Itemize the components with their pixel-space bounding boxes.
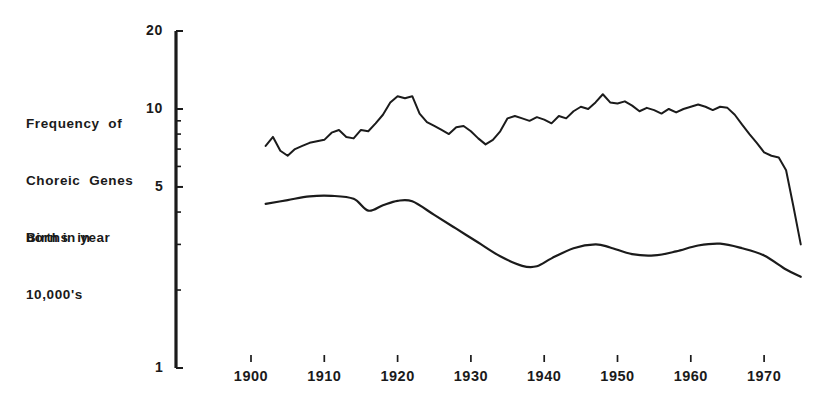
births-axis-label-line-2: 10,000's	[26, 285, 91, 304]
x-axis	[251, 355, 764, 362]
births-axis-label: Births in 10,000's	[26, 190, 91, 342]
x-tick-label-1930: 1930	[447, 368, 495, 384]
y-tick-label-10: 10	[146, 100, 163, 116]
choreic-genes-curve	[266, 94, 801, 244]
x-tick-label-1920: 1920	[374, 368, 422, 384]
frequency-axis-label-line-1: Frequency of	[26, 114, 133, 133]
x-tick-label-1960: 1960	[667, 368, 715, 384]
x-tick-label-1950: 1950	[594, 368, 642, 384]
x-tick-label-1900: 1900	[227, 368, 275, 384]
y-tick-label-20: 20	[146, 22, 163, 38]
data-series-group	[266, 94, 801, 277]
y-axis	[176, 31, 183, 368]
births-axis-label-line-1: Births in	[26, 228, 91, 247]
chart-figure: Frequency of Choreic Genes born in year …	[0, 0, 822, 418]
y-tick-label-5: 5	[155, 178, 164, 194]
x-tick-label-1910: 1910	[300, 368, 348, 384]
x-tick-label-1970: 1970	[740, 368, 788, 384]
births-curve	[266, 196, 801, 277]
frequency-axis-label-line-2: Choreic Genes	[26, 171, 133, 190]
x-tick-label-1940: 1940	[520, 368, 568, 384]
y-tick-label-1: 1	[155, 359, 164, 375]
